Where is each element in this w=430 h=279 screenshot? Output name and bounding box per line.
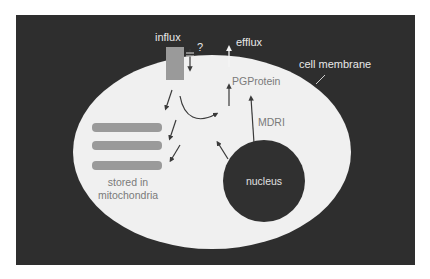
pgprotein-label: PGProtein xyxy=(232,75,281,87)
mdri-label: MDRI xyxy=(258,116,285,128)
efflux-label: efflux xyxy=(236,36,263,48)
nucleus-label: nucleus xyxy=(246,175,282,187)
influx-question-label: ? xyxy=(197,41,203,53)
stored-label-line1: stored in xyxy=(108,176,148,188)
diagram-canvas: influx ? efflux cell membrane PGProtein … xyxy=(0,0,430,279)
mitochondrion-1 xyxy=(92,123,162,132)
cell-body xyxy=(73,55,351,249)
cell-membrane-label: cell membrane xyxy=(299,58,371,70)
influx-label: influx xyxy=(155,31,181,43)
mitochondrion-3 xyxy=(92,161,162,170)
influx-channel xyxy=(166,47,184,80)
mitochondrion-2 xyxy=(92,141,162,150)
stored-label-line2: mitochondria xyxy=(98,189,158,201)
